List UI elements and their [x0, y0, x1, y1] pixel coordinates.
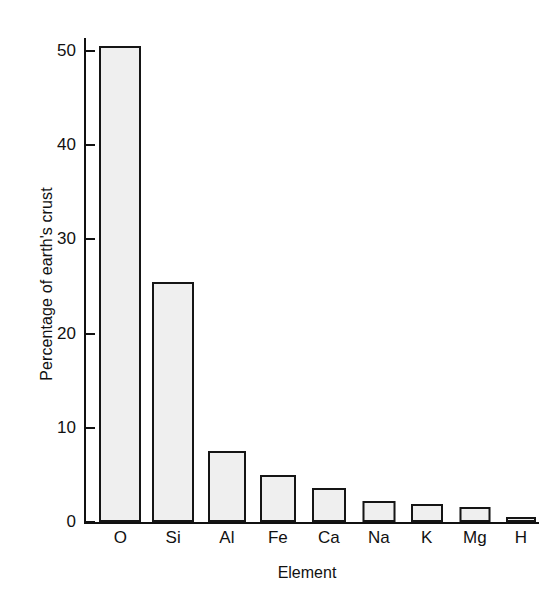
bar-H[interactable]: [506, 517, 536, 522]
bar-K[interactable]: [411, 504, 443, 522]
bar-O[interactable]: [99, 46, 141, 522]
y-tick-label: 0: [67, 512, 76, 532]
bar-Si[interactable]: [152, 282, 194, 522]
x-tick-label-K: K: [421, 528, 432, 548]
x-tick-label-Mg: Mg: [463, 528, 487, 548]
y-tick-label: 50: [57, 41, 76, 61]
x-tick-label-Al: Al: [219, 528, 234, 548]
x-tick-label-Si: Si: [166, 528, 181, 548]
bar-Na[interactable]: [362, 501, 395, 522]
x-axis-title: Element: [0, 564, 560, 582]
y-tick-label: 30: [57, 229, 76, 249]
y-tick-label: 20: [57, 324, 76, 344]
x-tick-label-O: O: [114, 528, 127, 548]
bar-Fe[interactable]: [260, 475, 296, 522]
plot-area: 01020304050 OSiAlFeCaNaKMgH: [84, 32, 539, 524]
bar-Mg[interactable]: [459, 507, 490, 522]
bar-chart: Percentage of earth's crust 01020304050 …: [0, 0, 560, 601]
x-tick-label-Ca: Ca: [318, 528, 340, 548]
x-tick-label-Fe: Fe: [268, 528, 288, 548]
x-axis-line: [84, 522, 539, 524]
x-tick-label-H: H: [515, 528, 527, 548]
bars-layer: OSiAlFeCaNaKMgH: [84, 32, 539, 522]
bar-Ca[interactable]: [312, 488, 346, 522]
bar-Al[interactable]: [208, 451, 246, 522]
y-tick-label: 40: [57, 135, 76, 155]
y-axis-title: Percentage of earth's crust: [38, 134, 56, 434]
x-tick-label-Na: Na: [368, 528, 390, 548]
y-tick-label: 10: [57, 418, 76, 438]
